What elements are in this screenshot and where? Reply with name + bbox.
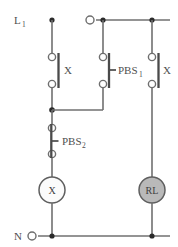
branch-lamp: X RL <box>139 20 171 236</box>
pbs2-label: PBS <box>62 135 82 147</box>
n-terminal-ring <box>28 232 36 240</box>
pbs1-label-subscript: 1 <box>139 70 143 79</box>
indicator-lamp-rl-label: RL <box>146 185 159 196</box>
contact-x-lamp-lower-ring <box>148 80 155 87</box>
pbs1-label: PBS <box>118 64 138 76</box>
relay-coil-x[interactable]: X <box>39 177 65 203</box>
contact-x-seal-in-upper-ring <box>48 53 55 60</box>
circuit-svg: L 1 X PBS 2 <box>0 0 178 247</box>
contact-x-seal-in[interactable] <box>48 53 58 88</box>
indicator-lamp-rl[interactable]: RL <box>139 177 165 203</box>
contact-x-lamp-label: X <box>163 64 171 76</box>
l1-rail-label-subscript: 1 <box>22 20 26 29</box>
circuit-diagram: L 1 X PBS 2 <box>0 0 178 247</box>
relay-coil-x-label: X <box>48 185 56 196</box>
branch-seal-in: X PBS 2 X <box>39 20 86 236</box>
pushbutton-pbs2[interactable] <box>48 124 58 158</box>
n-junction-dot-1 <box>49 233 54 238</box>
contact-x-seal-in-label: X <box>64 64 72 76</box>
l1-rail-label: L <box>14 14 21 26</box>
neutral-rail-n <box>28 232 170 240</box>
contact-x-seal-in-lower-ring <box>48 80 55 87</box>
contact-x-lamp[interactable] <box>148 53 158 88</box>
pbs1-upper-ring <box>99 53 106 60</box>
l1-terminal-ring <box>86 16 94 24</box>
pbs1-lower-ring <box>99 80 106 87</box>
pbs2-label-subscript: 2 <box>82 141 86 150</box>
n-rail-label: N <box>14 230 22 242</box>
n-junction-dot-2 <box>149 233 154 238</box>
pushbutton-pbs1[interactable] <box>99 53 116 88</box>
contact-x-lamp-upper-ring <box>148 53 155 60</box>
